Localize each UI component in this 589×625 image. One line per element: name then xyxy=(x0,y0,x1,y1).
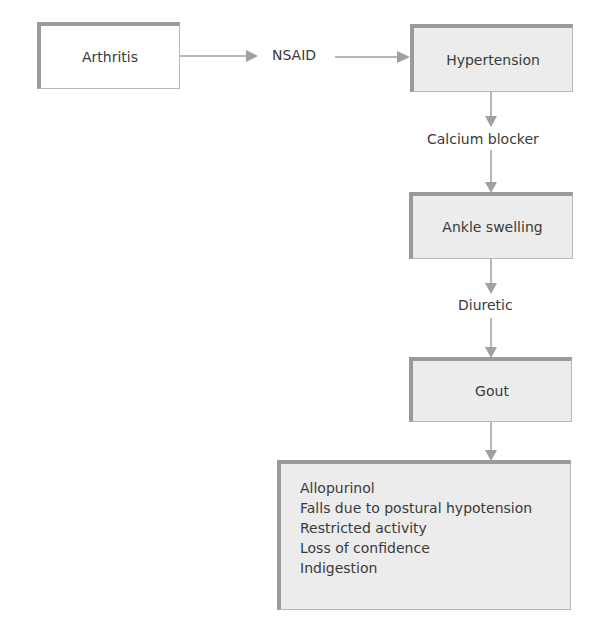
node-ankle-swelling: Ankle swelling xyxy=(409,192,573,259)
outcome-item: Restricted activity xyxy=(300,518,570,538)
edge-label-diuretic: Diuretic xyxy=(458,297,513,313)
node-hypertension-label: Hypertension xyxy=(446,52,540,68)
node-ankle-swelling-label: Ankle swelling xyxy=(442,219,542,235)
outcome-item: Loss of confidence xyxy=(300,538,570,558)
node-gout-label: Gout xyxy=(475,383,509,399)
node-arthritis-label: Arthritis xyxy=(82,49,138,65)
outcome-item: Indigestion xyxy=(300,558,570,578)
edge-label-nsaid: NSAID xyxy=(272,47,316,63)
outcome-item: Falls due to postural hypotension xyxy=(300,498,570,518)
outcome-item: Allopurinol xyxy=(300,478,570,498)
node-hypertension: Hypertension xyxy=(410,24,573,92)
edge-label-calcium-blocker: Calcium blocker xyxy=(427,131,539,147)
node-gout: Gout xyxy=(409,357,572,422)
node-arthritis: Arthritis xyxy=(37,22,180,89)
outcomes-box: Allopurinol Falls due to postural hypote… xyxy=(277,460,571,610)
